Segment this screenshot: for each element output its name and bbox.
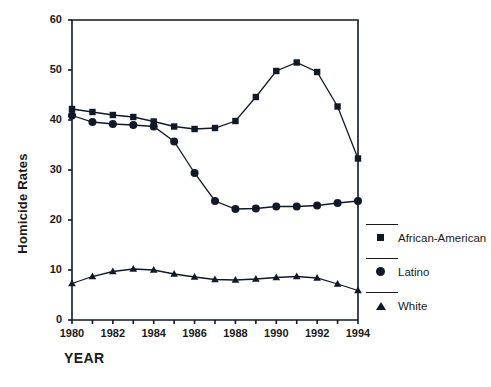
square-marker (376, 233, 386, 243)
y-tick-40: 40 (36, 113, 62, 125)
legend-line-latino (366, 258, 398, 259)
x-tick-1990: 1990 (254, 327, 298, 339)
axis-frame (72, 20, 358, 320)
y-tick-60: 60 (36, 13, 62, 25)
legend-item-african-american: African-American (366, 222, 490, 256)
y-tick-10: 10 (36, 263, 62, 275)
x-tick-1992: 1992 (295, 327, 339, 339)
legend-item-white: White (366, 290, 490, 324)
x-tick-1986: 1986 (173, 327, 217, 339)
chart-legend: African-American Latino White (366, 222, 490, 324)
legend-label-latino: Latino (398, 266, 429, 278)
triangle-marker (376, 301, 386, 311)
legend-item-latino: Latino (366, 256, 490, 290)
y-tick-30: 30 (36, 163, 62, 175)
x-tick-1984: 1984 (132, 327, 176, 339)
y-tick-50: 50 (36, 63, 62, 75)
legend-line-white (366, 292, 398, 293)
circle-marker (376, 267, 386, 277)
legend-label-african-american: African-American (398, 232, 486, 244)
series-african-american (69, 59, 361, 161)
legend-line-african-american (366, 224, 398, 225)
x-tick-1994: 1994 (336, 327, 380, 339)
series-white (68, 265, 362, 293)
x-tick-1982: 1982 (91, 327, 135, 339)
legend-label-white: White (398, 300, 427, 312)
homicide-rates-line-chart: Homicide Rates YEAR 0102030405060 198019… (0, 0, 491, 387)
y-tick-20: 20 (36, 213, 62, 225)
x-tick-1988: 1988 (213, 327, 257, 339)
y-tick-0: 0 (36, 313, 62, 325)
x-tick-1980: 1980 (50, 327, 94, 339)
